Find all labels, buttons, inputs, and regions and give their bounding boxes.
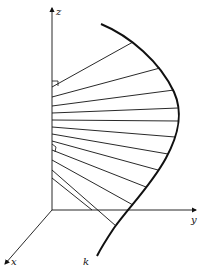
- z-axis-label: z: [55, 6, 62, 17]
- curve-k: [97, 24, 179, 256]
- ray: [52, 141, 158, 170]
- ray: [52, 68, 160, 97]
- ray: [52, 178, 92, 210]
- ray: [52, 170, 116, 226]
- ray: [52, 42, 133, 87]
- ray: [52, 108, 178, 113]
- ray: [52, 127, 175, 137]
- ray: [52, 160, 133, 205]
- curve-k-label: k: [83, 256, 89, 267]
- y-axis-label: y: [190, 214, 197, 225]
- ray: [52, 150, 146, 187]
- space-curve-diagram: z y x k: [0, 0, 200, 272]
- ray: [52, 134, 168, 154]
- x-axis-label: x: [11, 256, 17, 267]
- ray: [52, 120, 178, 121]
